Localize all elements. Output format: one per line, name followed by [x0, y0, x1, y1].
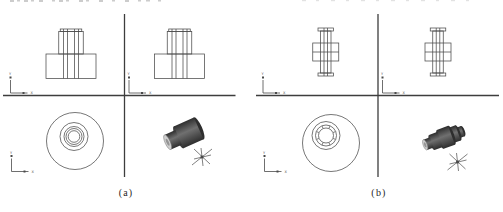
- panel-b-top-view-circles: [303, 115, 360, 172]
- panel-a-front-view-part: [46, 29, 96, 79]
- panel-b-shaded-model: [420, 121, 468, 155]
- panel-a-ucs-icon-bottom-left: [10, 151, 35, 174]
- panel-a-3d-axis-star-icon: [192, 148, 212, 166]
- outer-circle: [47, 113, 104, 170]
- panel-a: (a): [3, 14, 236, 199]
- panel-a-shaded-model: [160, 116, 206, 154]
- panel-a-ucs-icon-top-left: [9, 72, 34, 95]
- bore-circle: [68, 131, 80, 143]
- panel-a-top-view-circles: [47, 113, 104, 170]
- top-edge-text-fragments: [10, 0, 469, 2]
- panel-b: (b): [256, 14, 499, 199]
- panel-b-ucs-icon-top-left: [261, 72, 286, 95]
- panel-a-caption: (a): [119, 187, 134, 199]
- bore-circle: [319, 128, 334, 143]
- panel-b-ucs-icon-top-right: [381, 72, 406, 95]
- panel-b-front-view-part: [313, 28, 339, 76]
- panel-b-side-view-part: [425, 28, 451, 76]
- panel-b-3d-axis-star-icon: [448, 153, 468, 171]
- outer-circle: [303, 115, 360, 172]
- panel-a-ucs-icon-top-right: [127, 72, 152, 95]
- panel-b-caption: (b): [371, 187, 386, 199]
- panel-b-ucs-icon-bottom-left: [263, 151, 288, 174]
- ring-circle: [64, 127, 84, 147]
- figure-canvas: Y X: [0, 0, 503, 212]
- cad-figure: Y X: [0, 0, 503, 212]
- panel-a-side-view-part: [155, 29, 205, 79]
- spline-ticks: [317, 126, 336, 145]
- hub-circle: [312, 122, 340, 150]
